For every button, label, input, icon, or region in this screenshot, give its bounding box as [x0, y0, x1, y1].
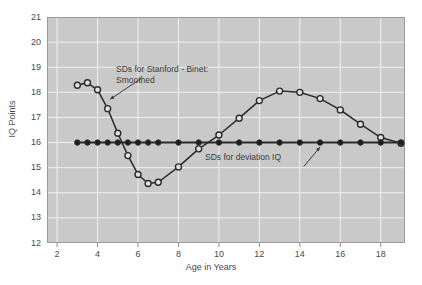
y-tick-13: 13 — [27, 213, 41, 222]
y-tick-20: 20 — [27, 38, 41, 47]
y-tick-19: 19 — [27, 63, 41, 72]
y-axis-title: IQ Points — [7, 89, 17, 149]
y-tick-21: 21 — [27, 13, 41, 22]
annotation-arrows — [0, 0, 422, 285]
x-axis-title: Age in Years — [0, 262, 422, 272]
x-tick-8: 8 — [170, 250, 186, 259]
x-tick-12: 12 — [251, 250, 267, 259]
annotation-deviation-iq-line1: SDs for deviation IQ — [205, 152, 281, 163]
x-tick-16: 16 — [332, 250, 348, 259]
y-tick-16: 16 — [27, 138, 41, 147]
x-tick-10: 10 — [211, 250, 227, 259]
chart-figure: 12131415161718192021 24681012141618 IQ P… — [0, 0, 422, 285]
x-tick-14: 14 — [292, 250, 308, 259]
y-tick-17: 17 — [27, 113, 41, 122]
annotation-stanford-binet-line1: SDs for Stanford - Binet: — [116, 64, 208, 75]
x-tick-6: 6 — [130, 250, 146, 259]
annotation-stanford-binet-line2: Smoothed — [116, 75, 208, 86]
annotation-stanford-binet: SDs for Stanford - Binet: Smoothed — [116, 64, 208, 86]
x-tick-18: 18 — [373, 250, 389, 259]
annotation-deviation-iq: SDs for deviation IQ — [205, 152, 281, 163]
y-tick-12: 12 — [27, 239, 41, 248]
x-tick-4: 4 — [90, 250, 106, 259]
y-tick-15: 15 — [27, 163, 41, 172]
y-tick-18: 18 — [27, 88, 41, 97]
x-tick-2: 2 — [49, 250, 65, 259]
y-tick-14: 14 — [27, 188, 41, 197]
